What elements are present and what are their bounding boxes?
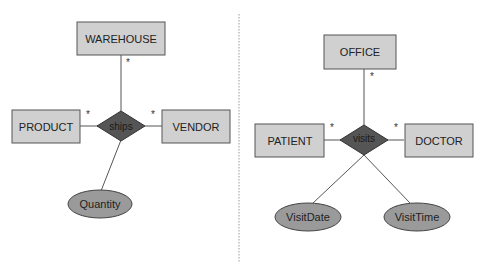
multiplicity-doctor: * [394,122,398,133]
svg-text:VisitTime: VisitTime [395,211,440,223]
multiplicity-product: * [86,109,90,120]
attribute-quantity[interactable]: Quantity [68,190,132,218]
multiplicity-office: * [370,71,374,82]
attribute-visitdate[interactable]: VisitDate [275,203,341,231]
entity-product[interactable]: PRODUCT [12,110,80,143]
svg-text:ships: ships [109,121,132,132]
relationship-visits[interactable]: visits [340,125,388,155]
multiplicity-vendor: * [151,109,155,120]
er-diagram-canvas: WAREHOUSE * PRODUCT * VENDOR * ships Qua… [0,0,484,280]
svg-text:VENDOR: VENDOR [172,121,219,133]
svg-text:visits: visits [353,133,375,144]
multiplicity-patient: * [330,122,334,133]
entity-doctor[interactable]: DOCTOR [405,124,473,157]
attribute-visittime[interactable]: VisitTime [384,203,450,231]
svg-text:PATIENT: PATIENT [268,135,313,147]
relationship-ships[interactable]: ships [97,111,145,141]
entity-office[interactable]: OFFICE [324,35,396,69]
svg-text:PRODUCT: PRODUCT [19,121,74,133]
entity-warehouse[interactable]: WAREHOUSE [77,22,165,55]
connector-ships-quantity [101,140,121,191]
svg-text:DOCTOR: DOCTOR [415,135,463,147]
svg-text:OFFICE: OFFICE [340,46,380,58]
multiplicity-warehouse: * [126,57,130,68]
svg-text:VisitDate: VisitDate [286,211,330,223]
svg-text:Quantity: Quantity [80,198,121,210]
connector-visits-visitdate [313,155,364,203]
entity-patient[interactable]: PATIENT [255,124,324,157]
connector-visits-visittime [364,155,410,203]
entity-vendor[interactable]: VENDOR [162,110,230,143]
svg-text:WAREHOUSE: WAREHOUSE [85,33,157,45]
